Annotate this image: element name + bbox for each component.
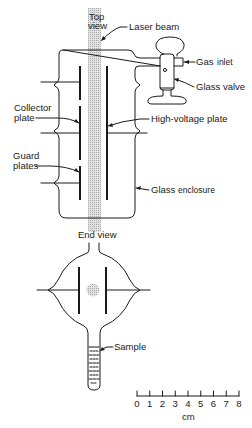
end-view-bulb bbox=[48, 243, 140, 390]
sample bbox=[89, 347, 99, 383]
guard-plates-leader bbox=[36, 166, 79, 172]
scale-tick-label: 6 bbox=[211, 398, 216, 409]
scale-tick-label: 4 bbox=[185, 398, 190, 409]
top-view: Top view Laser beam Gas inlet Glass valv… bbox=[13, 8, 245, 232]
scale-tick-label: 2 bbox=[160, 398, 165, 409]
collector-plate-leader bbox=[36, 118, 79, 123]
high-voltage-label: High-voltage plate bbox=[151, 113, 228, 124]
scale-tick-label: 3 bbox=[173, 398, 178, 409]
glass-valve-label: Glass valve bbox=[196, 81, 245, 92]
end-beam-spot bbox=[87, 284, 100, 297]
scale-tick-label: 7 bbox=[224, 398, 229, 409]
top-view-label-2: view bbox=[88, 20, 107, 31]
inlet-label: inlet bbox=[217, 57, 233, 67]
scale-tick-label: 8 bbox=[236, 398, 241, 409]
collector-plate-label-2: plate bbox=[14, 112, 35, 123]
end-view: End view Sample bbox=[37, 229, 150, 390]
high-voltage-leader bbox=[108, 119, 149, 126]
gas-label: Gas bbox=[196, 56, 214, 67]
apparatus-diagram: Top view Laser beam Gas inlet Glass valv… bbox=[0, 0, 252, 428]
sample-label: Sample bbox=[114, 341, 146, 352]
laser-beam-label: Laser beam bbox=[129, 21, 179, 32]
high-voltage-arrow bbox=[108, 123, 113, 127]
gas-inlet-arrow bbox=[184, 60, 189, 64]
glass-label: Glass bbox=[151, 184, 176, 195]
collector-plate-arrow bbox=[74, 119, 79, 123]
guard-plates-arrow bbox=[74, 168, 79, 172]
glass-valve bbox=[148, 37, 186, 104]
scale-tick-label: 5 bbox=[198, 398, 203, 409]
scale-tick-label: 0 bbox=[134, 398, 139, 409]
enclosure-label: enclosure bbox=[178, 185, 215, 195]
scale-bar: cm 012345678 bbox=[134, 391, 241, 422]
end-view-label: End view bbox=[78, 229, 117, 240]
glass-enclosure-arrow bbox=[136, 186, 141, 190]
scale-unit-label: cm bbox=[182, 411, 195, 422]
guard-plates-label-2: plates bbox=[13, 160, 39, 171]
laser-beam bbox=[88, 8, 101, 232]
scale-tick-label: 1 bbox=[147, 398, 152, 409]
